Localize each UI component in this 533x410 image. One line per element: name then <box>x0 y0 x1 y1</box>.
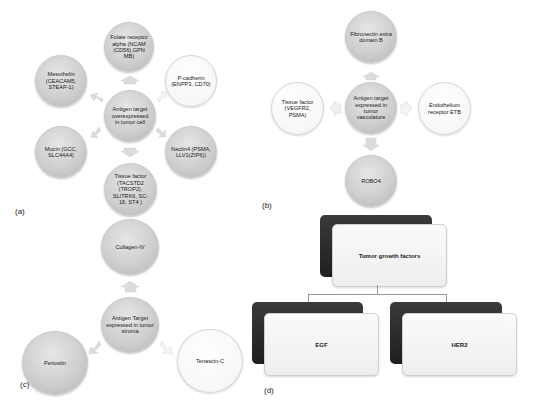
connector-horizontal <box>308 294 447 295</box>
card-her2: HER2 <box>402 313 517 376</box>
card-egf: EGF <box>264 313 379 376</box>
arrow-up-icon <box>121 281 139 292</box>
arrow-lower-left-icon <box>89 341 101 354</box>
connector-right <box>446 294 447 302</box>
card-root: Tumor growth factors <box>332 224 447 287</box>
connector-vertical-root <box>377 285 378 294</box>
arrow-lower-right-icon <box>160 341 172 354</box>
connector-left <box>308 294 309 302</box>
panel-label-d: (d) <box>264 386 274 395</box>
panel-label-c: (c) <box>20 380 29 389</box>
